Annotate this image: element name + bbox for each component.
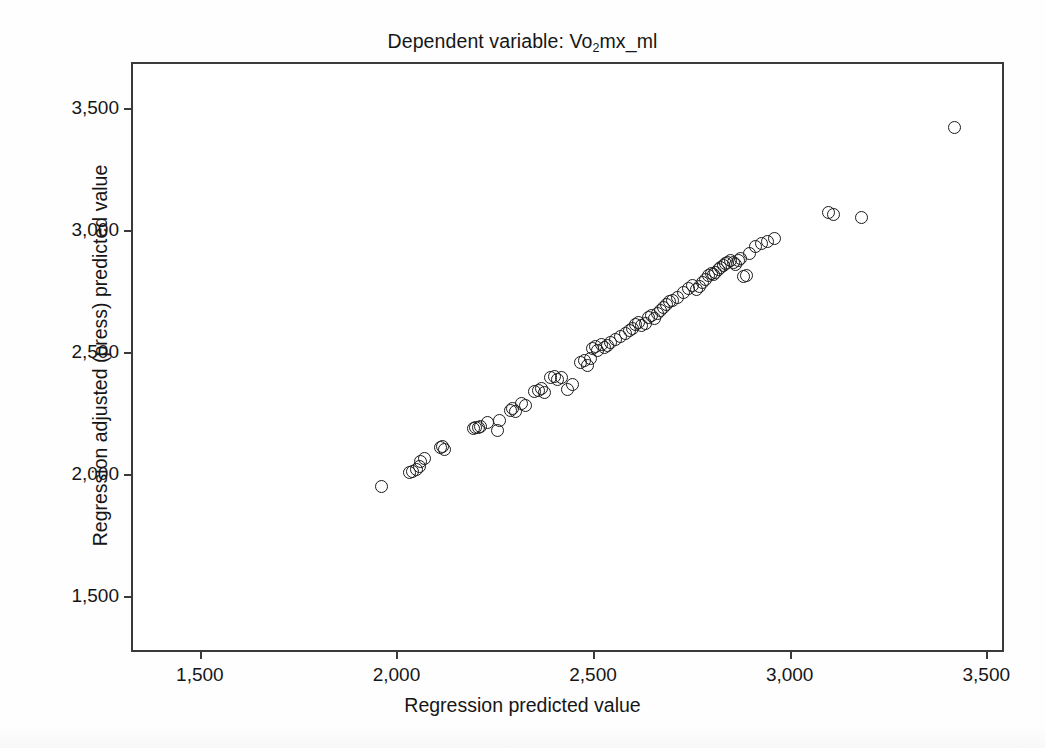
x-axis-tick: [396, 650, 398, 659]
x-axis-tick-label: 1,500: [176, 664, 224, 686]
scatter-point: [827, 208, 840, 221]
chart-title-main: Dependent variable: Vo: [388, 30, 593, 52]
x-axis-tick: [200, 650, 202, 659]
scatter-point: [740, 269, 753, 282]
x-axis-tick: [790, 650, 792, 659]
x-axis-title: Regression predicted value: [0, 694, 1045, 717]
scatter-points-layer: [133, 64, 1002, 650]
page-edge-shading: [0, 724, 1045, 748]
y-axis-tick: [124, 474, 133, 476]
scatter-point: [493, 414, 506, 427]
chart-title-tail: mx_ml: [600, 30, 658, 52]
scatter-point: [855, 211, 868, 224]
x-axis-tick-label: 2,500: [569, 664, 617, 686]
y-axis-tick: [124, 108, 133, 110]
x-axis-tick: [593, 650, 595, 659]
x-axis-tick-label: 3,500: [962, 664, 1010, 686]
plot-area: 1,5002,0002,5003,0003,5001,5002,0002,500…: [131, 62, 1004, 652]
y-axis-tick: [124, 596, 133, 598]
y-axis-title: Regression adjusted (press) predicted va…: [89, 56, 112, 656]
y-axis-tick: [124, 230, 133, 232]
scatter-point: [768, 232, 781, 245]
scatter-point: [566, 378, 579, 391]
x-axis-tick: [986, 650, 988, 659]
chart-title-subscript: 2: [592, 41, 599, 55]
scatter-point: [538, 386, 551, 399]
scatter-chart-figure: Dependent variable: Vo2mx_ml 1,5002,0002…: [0, 0, 1045, 748]
scatter-point: [519, 399, 532, 412]
x-axis-tick-label: 2,000: [373, 664, 421, 686]
scatter-point: [375, 480, 388, 493]
y-axis-tick: [124, 352, 133, 354]
x-axis-tick-label: 3,000: [766, 664, 814, 686]
scatter-point: [418, 452, 431, 465]
scatter-point: [948, 121, 961, 134]
scatter-point: [438, 443, 451, 456]
chart-title: Dependent variable: Vo2mx_ml: [0, 30, 1045, 53]
